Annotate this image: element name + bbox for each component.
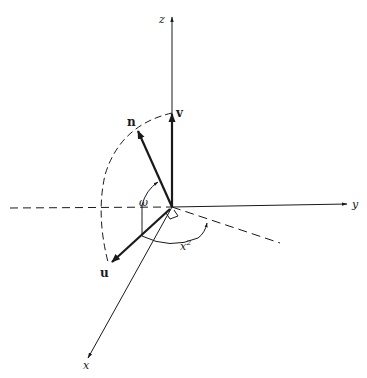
vector-u-label: u [100,266,109,280]
x-axis [88,207,172,358]
chi-angle-label: x2 [180,238,191,253]
vector-n-label: n [127,115,136,129]
coordinate-frame-diagram: z y x v n u ω x2 [0,0,367,378]
y-axis-label: y [351,198,359,211]
omega-angle-label: ω [139,196,148,209]
y-axis [172,204,347,207]
z-axis-label: z [158,13,165,26]
vector-u [112,209,170,262]
chi-angle-superscript: 2 [185,238,191,247]
x-axis-label: x [83,359,90,372]
vector-v-label: v [175,106,184,120]
